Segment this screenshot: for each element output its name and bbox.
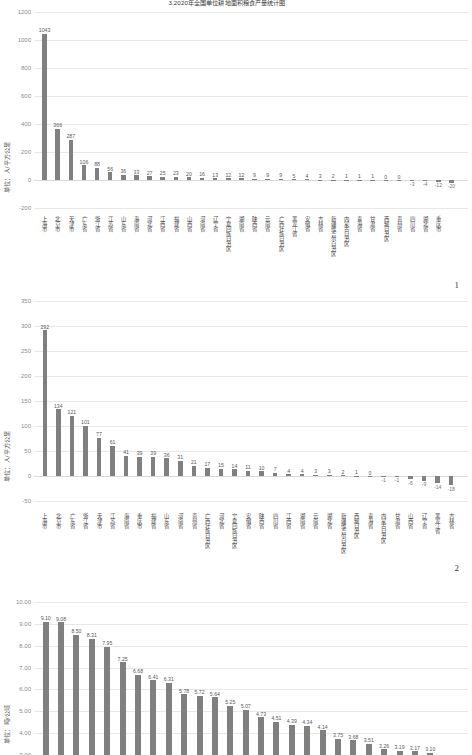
- bar: [289, 725, 295, 755]
- bar: [43, 330, 48, 476]
- bar: [192, 466, 197, 477]
- x-axis-category-label: 云南省: [265, 216, 270, 231]
- chart1-y-tick: 1200: [18, 9, 34, 15]
- bar-value-label: 292: [40, 324, 49, 330]
- x-axis-category-label: 青海省: [367, 513, 372, 528]
- chart1-page-number: 1: [455, 280, 460, 290]
- chart3-gridline: [34, 646, 468, 647]
- bar: [313, 475, 318, 477]
- bar-value-label: 56: [107, 166, 113, 172]
- x-axis-category-label: 陕西省: [259, 513, 264, 528]
- x-axis-category-label: 黑龙江省: [291, 216, 296, 236]
- chart3-gridline: [34, 689, 468, 690]
- x-axis-category-label: 北京市: [56, 513, 61, 528]
- chart3-plot-area: 9.109.088.508.317.957.256.686.416.315.78…: [34, 602, 468, 755]
- bar: [384, 180, 389, 181]
- bar-value-label: 1043: [39, 27, 51, 33]
- x-axis-category-label: 辽宁省: [421, 513, 426, 528]
- bar: [95, 168, 100, 180]
- bar: [174, 177, 179, 180]
- x-axis-category-label: 江苏省: [110, 513, 115, 528]
- x-axis-category-label: 陕西省: [252, 216, 257, 231]
- chart1-gridline: [34, 208, 468, 209]
- x-axis-category-label: 广西壮族自治区: [278, 216, 283, 251]
- bar-value-label: 41: [123, 449, 129, 455]
- x-axis-category-label: 河北省: [147, 216, 152, 231]
- chart1-y-tick: 400: [21, 121, 34, 127]
- bar: [181, 694, 187, 755]
- bar: [226, 178, 231, 180]
- bar: [258, 717, 264, 755]
- bar: [164, 458, 169, 476]
- bar-value-label: 7.25: [118, 656, 128, 662]
- bar-value-label: 33: [134, 169, 140, 175]
- chart2-y-tick: 50: [24, 448, 34, 454]
- bar: [120, 662, 126, 755]
- bar: [160, 177, 165, 181]
- bar: [344, 180, 349, 181]
- bar-value-label: -20: [448, 183, 456, 189]
- chart1-y-tick: 800: [21, 65, 34, 71]
- chart3-y-tick: 5.00: [19, 708, 34, 714]
- chart1-gridline: [34, 96, 468, 97]
- bar: [327, 475, 332, 477]
- chart1-y-tick: 600: [21, 93, 34, 99]
- chart2-gridline: [34, 426, 468, 427]
- bar-value-label: 3.17: [410, 745, 420, 751]
- bar: [43, 622, 49, 755]
- chart1-y-ticks: 120010008006004002000-200: [0, 8, 34, 288]
- bar-value-label: 366: [53, 122, 62, 128]
- bar-value-label: 3.19: [394, 744, 404, 750]
- bar: [292, 179, 297, 180]
- bar: [108, 172, 113, 180]
- chart2-gridline: [34, 501, 468, 502]
- bar: [213, 178, 218, 180]
- chart2-y-tick: 350: [21, 298, 34, 304]
- x-axis-category-label: 新疆维吾尔自治区: [331, 216, 336, 256]
- x-axis-category-label: 山西省: [186, 216, 191, 231]
- bar-value-label: 61: [110, 439, 116, 445]
- chart1-gridline: [34, 180, 468, 181]
- bar: [335, 739, 341, 755]
- bar: [304, 726, 310, 755]
- x-axis-category-label: 福建省: [173, 216, 178, 231]
- x-axis-category-label: 安徽省: [245, 513, 250, 528]
- bar-value-label: 6.31: [164, 676, 174, 682]
- bar-value-label: 27: [147, 170, 153, 176]
- document-page: 3.2020年全国单位耕地面积粮食产量统计图 单位：人/平方公里 1200100…: [0, 0, 472, 755]
- chart2-gridline: [34, 326, 468, 327]
- bar-value-label: 36: [164, 452, 170, 458]
- x-axis-category-label: 贵州省: [191, 513, 196, 528]
- x-axis-category-label: 福建省: [150, 513, 155, 528]
- bar: [341, 475, 346, 476]
- bar: [151, 457, 156, 477]
- bar: [147, 176, 152, 180]
- bar: [134, 175, 139, 180]
- chart1-y-tick: 200: [21, 149, 34, 155]
- bar: [331, 180, 336, 181]
- bar-value-label: -4: [423, 181, 428, 187]
- bar: [70, 416, 75, 477]
- bar: [56, 409, 61, 476]
- bar-value-label: 1: [355, 469, 358, 475]
- bar-value-label: 3.26: [379, 743, 389, 749]
- x-axis-category-label: 吉林省: [317, 216, 322, 231]
- bar-value-label: 101: [81, 419, 90, 425]
- bar-value-label: 12: [225, 172, 231, 178]
- bar: [178, 461, 183, 477]
- bar: [205, 468, 210, 477]
- x-axis-category-label: 湖南省: [239, 216, 244, 231]
- x-axis-category-label: 贵州省: [396, 216, 401, 231]
- bar: [83, 426, 88, 477]
- bar: [73, 635, 79, 755]
- bar-value-label: 10: [259, 465, 265, 471]
- x-axis-category-label: 河南省: [178, 513, 183, 528]
- bar: [110, 446, 115, 477]
- x-axis-category-label: 广西壮族自治区: [205, 513, 210, 548]
- bar-value-label: 16: [199, 171, 205, 177]
- chart2-gridline: [34, 301, 468, 302]
- bar: [58, 622, 64, 755]
- bar-value-label: -12: [435, 182, 443, 188]
- chart3-gridline: [34, 668, 468, 669]
- chart3-gridline: [34, 624, 468, 625]
